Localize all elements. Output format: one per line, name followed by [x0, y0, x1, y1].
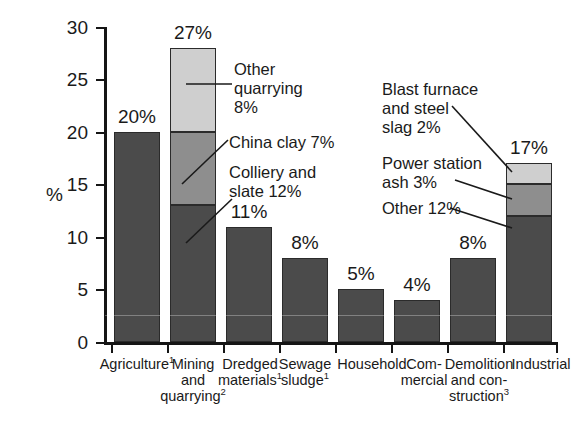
bar-value-dredged: 11% [216, 202, 282, 221]
y-tick-label-10: 10 [40, 228, 88, 247]
bar-value-sewage: 8% [272, 233, 338, 252]
y-tick-20 [96, 132, 105, 134]
category-label-industrial: Industrial [505, 356, 576, 372]
y-tick-label-15: 15 [40, 175, 88, 194]
y-tick-label-25: 25 [40, 70, 88, 89]
bar-value-demolition: 8% [440, 233, 506, 252]
x-tick-7 [503, 343, 505, 353]
bar-mining-segment-china-clay [170, 132, 216, 205]
callout-colliery-slate: Colliery and slate 12% [229, 163, 369, 201]
y-tick-30 [96, 27, 105, 29]
callout-power-station-ash: Power station ash 3% [382, 154, 512, 192]
x-tick-1 [167, 343, 169, 353]
bar-industrial-segment-other [506, 216, 552, 342]
y-tick-label-5: 5 [40, 280, 88, 299]
faint-gridline [105, 315, 557, 316]
callout-other-quarrying: Other quarrying 8% [234, 60, 344, 117]
y-tick-label-0: 0 [40, 333, 88, 352]
y-tick-label-30: 30 [40, 18, 88, 37]
x-tick-4 [335, 343, 337, 353]
x-tick-6 [447, 343, 449, 353]
bar-value-mining: 27% [160, 23, 226, 42]
bar-dredged-segment-base [226, 227, 272, 342]
x-tick-5 [391, 343, 393, 353]
bar-value-commercial: 4% [384, 275, 450, 294]
y-tick-0 [96, 342, 105, 344]
y-tick-25 [96, 79, 105, 81]
x-axis-line [104, 342, 558, 345]
bar-sewage-segment-base [282, 258, 328, 342]
y-tick-15 [96, 184, 105, 186]
bar-industrial-segment-power-station-ash [506, 184, 552, 216]
x-tick-8 [556, 343, 558, 353]
bar-value-agriculture: 20% [104, 107, 170, 126]
callout-china-clay: China clay 7% [229, 133, 379, 152]
y-tick-label-20: 20 [40, 123, 88, 142]
callout-other-industrial: Other 12% [382, 199, 492, 218]
bar-demolition-segment-base [450, 258, 496, 342]
y-tick-10 [96, 237, 105, 239]
x-tick-3 [279, 343, 281, 353]
callout-blast-furnace-slag: Blast furnace and steel slag 2% [382, 80, 502, 137]
bar-agriculture-segment-base [114, 132, 160, 342]
category-label-demolition-footnote: 3 [504, 386, 509, 397]
x-tick-2 [223, 343, 225, 353]
bar-commercial-segment-base [394, 300, 440, 342]
bar-chart: % 30 25 20 15 10 5 0 20% 27% 11% 8% 5% 4… [0, 0, 576, 424]
bar-mining-segment-colliery-slate [170, 205, 216, 342]
y-tick-5 [96, 289, 105, 291]
bar-industrial-segment-blast-furnace-slag [506, 163, 552, 184]
x-tick-0 [111, 343, 113, 353]
bar-mining-segment-other-quarrying [170, 48, 216, 132]
